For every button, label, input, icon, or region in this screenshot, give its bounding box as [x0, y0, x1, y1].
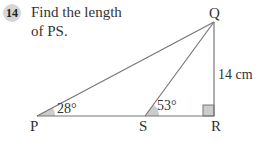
vertex-q-label: Q [209, 5, 220, 21]
triangle-diagram: Q P S R 14 cm 28° 53° [0, 0, 258, 150]
right-angle-marker [203, 105, 214, 116]
line-sq [145, 22, 214, 116]
vertex-s-label: S [139, 118, 147, 134]
side-qr-label: 14 cm [218, 67, 253, 82]
vertex-r-label: R [211, 118, 221, 134]
angle-s-label: 53° [157, 98, 177, 113]
angle-p-label: 28° [57, 101, 77, 116]
vertex-p-label: P [30, 118, 38, 134]
